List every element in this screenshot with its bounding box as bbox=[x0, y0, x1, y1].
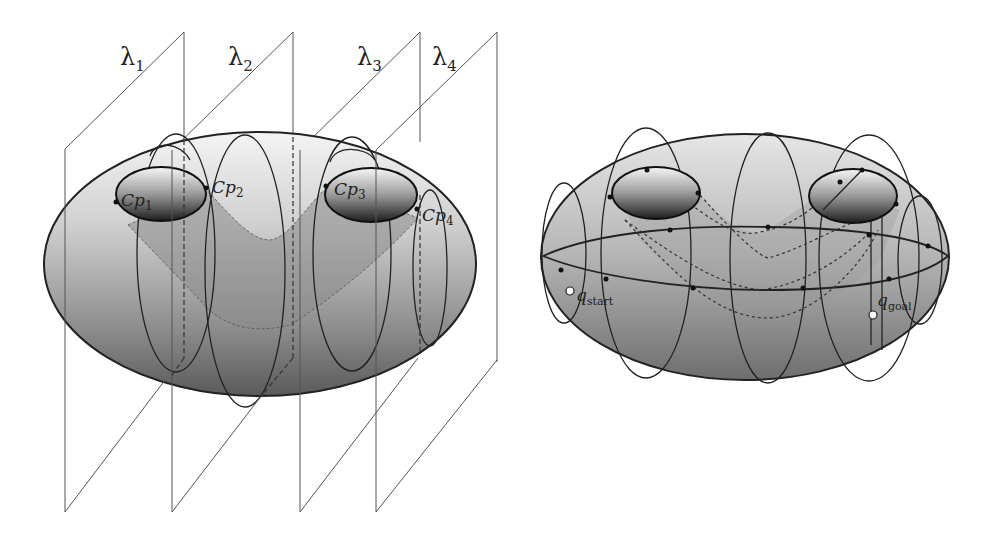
goal-marker bbox=[869, 311, 877, 319]
roadmap-obstacle-left bbox=[612, 167, 700, 219]
plane-label-1: λ1 bbox=[120, 43, 145, 75]
plane-label-4: λ4 bbox=[432, 43, 457, 75]
figure-canvas: λ1 λ2 λ3 λ4 Cp1 Cp2 Cp3 Cp4 bbox=[0, 0, 988, 542]
plane-label-3: λ3 bbox=[357, 43, 382, 75]
right-panel: qstart qgoal bbox=[541, 128, 949, 383]
roadmap-obstacle-right bbox=[809, 169, 897, 223]
left-panel: λ1 λ2 λ3 λ4 Cp1 Cp2 Cp3 Cp4 bbox=[44, 32, 497, 512]
start-marker bbox=[566, 287, 574, 295]
plane-label-2: λ2 bbox=[228, 43, 253, 75]
